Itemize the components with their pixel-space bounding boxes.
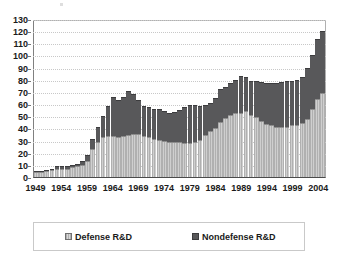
bar-segment-defense bbox=[101, 137, 106, 177]
bar-column bbox=[111, 21, 116, 177]
bar-segment-nondefense bbox=[310, 55, 315, 109]
bar-column bbox=[50, 21, 55, 177]
bar-column bbox=[310, 21, 315, 177]
bar-column bbox=[264, 21, 269, 177]
y-axis-tick-mark bbox=[28, 154, 31, 155]
legend-item-nondefense-rd[interactable]: Nondefense R&D bbox=[192, 232, 276, 242]
bar-column bbox=[188, 21, 193, 177]
bar-segment-defense bbox=[106, 136, 111, 177]
y-axis-tick-mark bbox=[28, 69, 31, 70]
bar-segment-nondefense bbox=[305, 68, 310, 120]
bar-segment-nondefense bbox=[233, 80, 238, 114]
x-axis-tick-label: 1974 bbox=[154, 183, 174, 194]
bar-column bbox=[157, 21, 162, 177]
x-axis-tick-label: 1999 bbox=[283, 183, 303, 194]
bar-segment-nondefense bbox=[315, 39, 320, 99]
x-axis-tick-label: 1989 bbox=[231, 183, 251, 194]
bar-segment-defense bbox=[208, 131, 213, 177]
bar-column bbox=[203, 21, 208, 177]
bar-segment-nondefense bbox=[136, 100, 141, 134]
bar-segment-defense bbox=[70, 167, 75, 177]
bar-column bbox=[126, 21, 131, 177]
bar-segment-defense bbox=[177, 142, 182, 177]
bar-segment-nondefense bbox=[285, 81, 290, 127]
bar-column bbox=[244, 21, 249, 177]
bar-segment-defense bbox=[167, 142, 172, 177]
bar-segment-nondefense bbox=[142, 106, 147, 136]
bar-column bbox=[172, 21, 177, 177]
bar-segment-nondefense bbox=[111, 97, 116, 137]
bar-segment-nondefense bbox=[101, 116, 106, 138]
bar-segment-nondefense bbox=[228, 83, 233, 114]
bar-column bbox=[295, 21, 300, 177]
bar-segment-defense bbox=[269, 125, 274, 177]
y-axis-tick-label: 20 bbox=[18, 149, 28, 158]
bar-segment-defense bbox=[75, 166, 80, 177]
bar-column bbox=[121, 21, 126, 177]
bar-segment-nondefense bbox=[193, 105, 198, 142]
bar-column bbox=[300, 21, 305, 177]
bar-segment-defense bbox=[279, 127, 284, 177]
bar-column bbox=[116, 21, 121, 177]
bar-column bbox=[315, 21, 320, 177]
bar-segment-defense bbox=[136, 134, 141, 177]
bar-segment-nondefense bbox=[264, 83, 269, 124]
bar-segment-nondefense bbox=[131, 94, 136, 134]
legend-item-defense-rd[interactable]: Defense R&D bbox=[65, 232, 132, 242]
bar-segment-defense bbox=[218, 122, 223, 177]
bar-segment-defense bbox=[305, 119, 310, 177]
y-axis-tick-mark bbox=[28, 105, 31, 106]
bar-segment-nondefense bbox=[172, 112, 177, 142]
bar-segment-nondefense bbox=[177, 110, 182, 142]
bar-segment-defense bbox=[152, 139, 157, 177]
federal-rd-stacked-bar-chart: 0102030405060708090100110120130 19491954… bbox=[0, 0, 344, 262]
y-axis-tick-mark bbox=[28, 20, 31, 21]
bar-segment-nondefense bbox=[167, 113, 172, 142]
bar-column bbox=[44, 21, 49, 177]
bar-column bbox=[70, 21, 75, 177]
bar-series-container bbox=[34, 21, 325, 177]
bar-segment-nondefense bbox=[121, 97, 126, 137]
y-axis-tick-label: 100 bbox=[13, 52, 28, 61]
bar-column bbox=[198, 21, 203, 177]
bar-column bbox=[259, 21, 264, 177]
y-axis-tick-label: 90 bbox=[18, 64, 28, 73]
y-axis-tick-label: 70 bbox=[18, 88, 28, 97]
bar-segment-nondefense bbox=[295, 80, 300, 126]
y-axis-tick-mark bbox=[28, 117, 31, 118]
bar-column bbox=[290, 21, 295, 177]
bar-column bbox=[60, 21, 65, 177]
y-axis-tick-label: 80 bbox=[18, 76, 28, 85]
bar-segment-defense bbox=[264, 124, 269, 177]
bar-column bbox=[223, 21, 228, 177]
bar-segment-nondefense bbox=[218, 89, 223, 121]
bar-segment-nondefense bbox=[203, 105, 208, 135]
y-axis-tick-label: 40 bbox=[18, 125, 28, 134]
bar-column bbox=[218, 21, 223, 177]
bar-segment-nondefense bbox=[279, 82, 284, 126]
bar-segment-defense bbox=[147, 137, 152, 177]
bar-segment-defense bbox=[285, 127, 290, 177]
bar-segment-defense bbox=[228, 115, 233, 177]
y-axis-tick-mark bbox=[28, 142, 31, 143]
bar-column bbox=[147, 21, 152, 177]
bar-column bbox=[162, 21, 167, 177]
bar-segment-nondefense bbox=[249, 81, 254, 115]
bar-segment-defense bbox=[172, 142, 177, 177]
bar-column bbox=[279, 21, 284, 177]
bar-segment-defense bbox=[259, 121, 264, 177]
bar-segment-nondefense bbox=[259, 82, 264, 120]
bar-segment-defense bbox=[131, 134, 136, 177]
bar-segment-defense bbox=[80, 165, 85, 177]
bar-column bbox=[131, 21, 136, 177]
bar-column bbox=[152, 21, 157, 177]
bar-column bbox=[228, 21, 233, 177]
y-axis-tick-mark bbox=[28, 93, 31, 94]
bar-segment-defense bbox=[198, 140, 203, 177]
bar-segment-defense bbox=[65, 169, 70, 177]
bar-segment-defense bbox=[34, 172, 39, 177]
bar-segment-defense bbox=[290, 125, 295, 177]
bar-segment-defense bbox=[126, 135, 131, 177]
x-axis-tick-label: 1994 bbox=[257, 183, 277, 194]
bar-column bbox=[249, 21, 254, 177]
